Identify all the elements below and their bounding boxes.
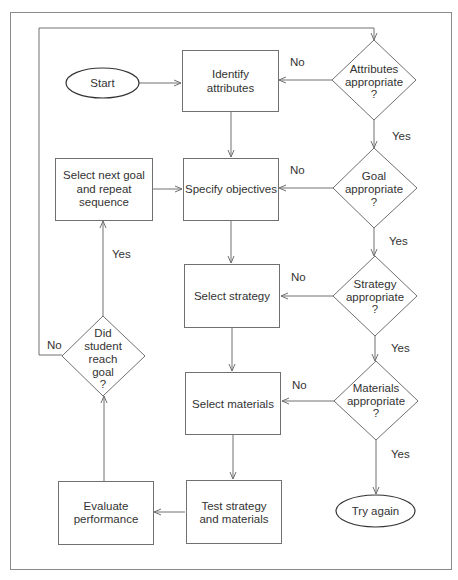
node-specify-line1: Specify objectives — [185, 183, 277, 195]
decision-student-line1: Did — [94, 327, 111, 339]
node-start-label: Start — [90, 77, 115, 89]
node-tryagain-label: Try again — [352, 505, 400, 517]
label-no-materials: No — [292, 379, 307, 391]
edge-identify-specify — [228, 112, 234, 157]
node-test-line1: Test strategy — [201, 500, 266, 512]
node-test-line2: and materials — [199, 513, 268, 525]
node-start: Start — [66, 68, 139, 98]
edge-dgoal-dstrategy — [371, 228, 377, 256]
edge-dmaterials-materials — [282, 398, 334, 404]
node-evaluate-line2: performance — [74, 513, 139, 525]
edge-dstrategy-dmaterials — [372, 336, 378, 361]
node-nextgoal-line1: Select next goal — [63, 169, 145, 181]
decision-attributes-appropriate: Attributes appropriate ? — [332, 40, 416, 120]
node-select-strategy: Select strategy — [185, 265, 280, 328]
node-identify-line1: Identify — [212, 68, 249, 80]
label-yes-materials: Yes — [391, 448, 410, 460]
decision-goal-appropriate: Goal appropriate ? — [333, 148, 417, 228]
edge-evaluate-student — [101, 396, 107, 481]
edge-dmaterials-tryagain — [373, 440, 379, 494]
decision-materials-appropriate: Materials appropriate ? — [334, 361, 418, 440]
decision-student-reach-goal: Did student reach goal ? — [62, 316, 145, 396]
node-evaluate-performance: Evaluate performance — [59, 482, 154, 545]
decision-materials-line3: ? — [373, 407, 379, 419]
decision-student-line5: ? — [100, 378, 106, 390]
label-yes-student: Yes — [112, 248, 131, 260]
node-nextgoal-line2: and repeat — [77, 183, 133, 195]
node-specify-objectives: Specify objectives — [184, 159, 279, 221]
edge-strategy-materials — [229, 328, 235, 371]
label-no-attributes: No — [290, 56, 305, 68]
decision-student-line4: goal — [92, 366, 114, 378]
edge-student-nextgoal — [100, 221, 106, 316]
node-identify-attributes: Identify attributes — [183, 51, 279, 112]
decision-materials-line1: Materials — [353, 382, 400, 394]
edge-dattr-dgoal — [371, 120, 377, 148]
node-nextgoal-line3: sequence — [79, 196, 129, 208]
label-yes-goal: Yes — [389, 235, 408, 247]
flowchart: No Yes No Yes No Yes No Yes Yes No Start… — [0, 0, 458, 580]
decision-strategy-line2: appropriate — [346, 291, 404, 303]
decision-attributes-line3: ? — [371, 88, 377, 100]
decision-attributes-line2: appropriate — [345, 76, 403, 88]
node-test-strategy-materials: Test strategy and materials — [187, 481, 282, 544]
label-no-goal: No — [290, 164, 305, 176]
edge-dattr-identify — [279, 77, 332, 83]
decision-student-line2: student — [84, 340, 123, 352]
label-no-strategy: No — [291, 271, 306, 283]
decision-goal-line1: Goal — [362, 170, 386, 182]
edge-start-identify — [139, 80, 181, 86]
node-strategy-line1: Select strategy — [194, 290, 270, 302]
node-try-again: Try again — [336, 495, 415, 527]
edge-specify-strategy — [228, 221, 234, 263]
label-yes-attributes: Yes — [392, 130, 411, 142]
node-select-next-goal: Select next goal and repeat sequence — [56, 159, 153, 221]
decision-attributes-line1: Attributes — [350, 63, 399, 75]
node-identify-line2: attributes — [207, 82, 255, 94]
edge-dstrategy-strategy — [281, 293, 333, 299]
label-no-student: No — [47, 339, 62, 351]
node-select-materials: Select materials — [186, 373, 281, 435]
label-yes-strategy: Yes — [391, 342, 410, 354]
node-evaluate-line1: Evaluate — [84, 500, 129, 512]
decision-student-line3: reach — [89, 353, 118, 365]
edge-test-evaluate — [154, 509, 185, 515]
edge-nextgoal-specify — [152, 186, 182, 192]
decision-materials-line2: appropriate — [347, 395, 405, 407]
edge-materials-test — [230, 435, 236, 479]
node-materials-line1: Select materials — [192, 398, 274, 410]
edge-dgoal-specify — [279, 185, 333, 191]
decision-goal-line3: ? — [371, 196, 377, 208]
decision-strategy-line3: ? — [372, 303, 378, 315]
decision-goal-line2: appropriate — [345, 183, 403, 195]
decision-strategy-appropriate: Strategy appropriate ? — [333, 256, 417, 336]
decision-strategy-line1: Strategy — [354, 278, 397, 290]
